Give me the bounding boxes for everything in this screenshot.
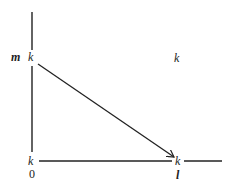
y-axis-label: m bbox=[11, 51, 20, 63]
node-origin-label: k bbox=[28, 155, 33, 167]
diagram: m k k k 0 k l bbox=[0, 0, 230, 189]
node-top-left-label: k bbox=[28, 51, 33, 63]
diagram-canvas bbox=[0, 0, 230, 189]
diagonal-arrow-edge bbox=[38, 64, 174, 157]
node-top-right-label: k bbox=[174, 52, 179, 64]
node-bottom-right-label: k bbox=[175, 155, 180, 167]
x-axis-label: l bbox=[176, 169, 179, 181]
origin-value-label: 0 bbox=[29, 168, 35, 180]
